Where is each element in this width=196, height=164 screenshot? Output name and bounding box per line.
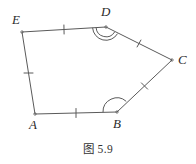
vertex-label-D: D	[101, 5, 110, 18]
vertex-label-C: C	[178, 53, 187, 66]
figure-caption: 图 5.9	[0, 140, 196, 156]
tick-edge-CD	[137, 40, 141, 48]
vertex-label-B: B	[113, 117, 121, 130]
angle-arc-D-inner	[96, 28, 115, 37]
vertex-label-E: E	[12, 13, 20, 26]
geometry-figure: A B C D E 图 5.9	[0, 0, 196, 164]
angle-arc-B	[103, 98, 126, 112]
vertex-dots	[21, 26, 173, 115]
pentagon-edges	[22, 27, 172, 114]
vertex-label-A: A	[29, 118, 37, 131]
angle-marks	[93, 28, 127, 113]
